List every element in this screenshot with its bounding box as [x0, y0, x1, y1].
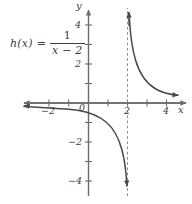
x-axis-label: x — [178, 104, 184, 115]
formula-fraction: 1 x − 2 — [50, 30, 84, 56]
origin-label: 0 — [79, 102, 85, 113]
function-graph-figure: h(x) = 1 x − 2 y x 0 −2 2 4 4 2 −2 −4 — [0, 0, 192, 204]
y-tick-label-neg2: −2 — [68, 136, 82, 147]
x-tick-label-neg2: −2 — [41, 105, 55, 116]
formula-numerator: 1 — [61, 30, 74, 43]
y-tick-label-4: 4 — [75, 19, 81, 30]
curve-right-branch — [129, 18, 178, 95]
x-tick-label-4: 4 — [163, 105, 169, 116]
y-tick-label-neg4: −4 — [68, 175, 82, 186]
y-tick-label-2: 2 — [75, 58, 81, 69]
x-tick-label-2: 2 — [124, 105, 130, 116]
y-axis-label: y — [76, 0, 82, 11]
function-formula: h(x) = 1 x − 2 — [10, 30, 85, 56]
formula-denominator: x − 2 — [50, 44, 84, 57]
formula-equals: = — [37, 37, 46, 50]
formula-lhs: h(x) — [10, 37, 33, 50]
